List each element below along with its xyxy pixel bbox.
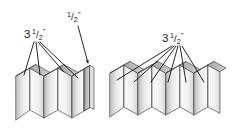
panel-face: [44, 68, 58, 118]
edge-thickness-arrow: [78, 26, 88, 63]
panel-face: [72, 69, 84, 118]
panel-face: [208, 65, 220, 114]
inch-mark: ": [181, 31, 184, 40]
panel-face: [194, 65, 208, 115]
end-cap-face: [90, 66, 94, 110]
whole-number: 3: [162, 32, 168, 44]
right-accordion-assembly: [110, 62, 226, 118]
panel-face: [152, 65, 166, 115]
callout-label-edge-thickness: 1/2": [67, 10, 81, 24]
whole-number: 3: [24, 28, 30, 40]
callout-label-left-width: 31/2": [24, 27, 46, 41]
panel-face: [30, 68, 44, 118]
left-accordion-assembly: [16, 65, 94, 121]
inch-mark: ": [43, 27, 46, 36]
end-cap-edge: [84, 66, 90, 112]
panel-face: [110, 65, 124, 117]
figure-container: 1/2" 31/2" 31/2": [0, 0, 236, 134]
panel-face: [58, 68, 72, 118]
panel-face: [124, 65, 138, 115]
inch-mark: ": [78, 10, 81, 19]
panel-face: [166, 65, 180, 115]
panel-face: [16, 68, 30, 120]
panel-face: [180, 65, 194, 115]
accordion-panel-diagram: 1/2" 31/2" 31/2": [0, 0, 236, 134]
callout-label-right-width: 31/2": [162, 31, 184, 45]
